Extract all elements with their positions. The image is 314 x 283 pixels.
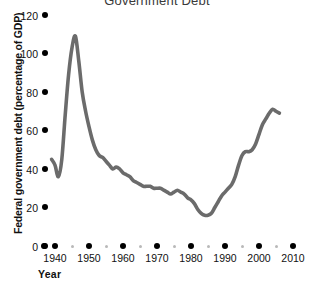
- x-axis-minor-tick-dot-icon: [173, 245, 176, 248]
- x-axis-minor-tick-dot-icon: [207, 245, 210, 248]
- x-axis-tick-label: 2010: [276, 252, 310, 264]
- x-axis-tick-dot-icon: [256, 243, 262, 249]
- x-axis-tick-label: 1950: [72, 252, 106, 264]
- x-axis-tick-dot-icon: [188, 243, 194, 249]
- x-axis-tick-dot-icon: [290, 243, 296, 249]
- x-axis-tick-label: 1940: [38, 252, 72, 264]
- x-axis-tick-label: 2000: [242, 252, 276, 264]
- x-axis-tick-dot-icon: [222, 243, 228, 249]
- x-axis-minor-tick-dot-icon: [71, 245, 74, 248]
- x-axis-minor-tick-dot-icon: [275, 245, 278, 248]
- x-axis-tick-dot-icon: [52, 243, 58, 249]
- x-axis-origin-dot-icon: [41, 243, 47, 249]
- x-axis-minor-tick-dot-icon: [139, 245, 142, 248]
- x-axis-title: Year: [38, 268, 61, 280]
- x-axis-tick-label: 1960: [106, 252, 140, 264]
- debt-series-line: [52, 36, 280, 216]
- government-debt-chart: Government Debt Federal government debt …: [0, 0, 314, 283]
- x-axis-tick-label: 1990: [208, 252, 242, 264]
- x-axis-tick-dot-icon: [120, 243, 126, 249]
- data-line-plot: [0, 0, 314, 283]
- x-axis-tick-dot-icon: [86, 243, 92, 249]
- x-axis-tick-dot-icon: [154, 243, 160, 249]
- x-axis-minor-tick-dot-icon: [105, 245, 108, 248]
- x-axis-minor-tick-dot-icon: [241, 245, 244, 248]
- x-axis-tick-label: 1980: [174, 252, 208, 264]
- x-axis-tick-label: 1970: [140, 252, 174, 264]
